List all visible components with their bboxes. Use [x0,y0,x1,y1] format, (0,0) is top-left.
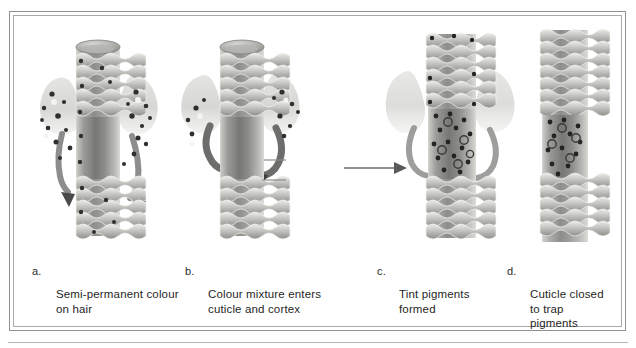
panel-caption-d: Cuticle closed to trap pigments [530,287,634,331]
panel-c-illustration [386,33,515,239]
panel-b-illustration [181,40,300,239]
panel-caption-c: Tint pigments formed [399,287,517,316]
panel-letter-c: c. [377,265,386,277]
panel-caption-b: Colour mixture enters cuticle and cortex [208,287,348,316]
panel-letter-b: b. [185,265,195,277]
panel-a-illustration [40,40,158,239]
panel-letter-a: a. [32,265,42,277]
page-bottom-rule [8,342,628,343]
panel-caption-a: Semi-permanent colour on hair [56,287,196,316]
flow-arrow-b-to-c-icon [344,162,407,174]
figure-illustration-area [14,16,622,256]
scanned-page: a. b. c. d. Semi-permanent colour on hai… [0,0,636,348]
panel-letter-d: d. [507,265,517,277]
hair-colour-process-illustration [14,16,622,256]
panel-d-illustration [540,29,610,242]
